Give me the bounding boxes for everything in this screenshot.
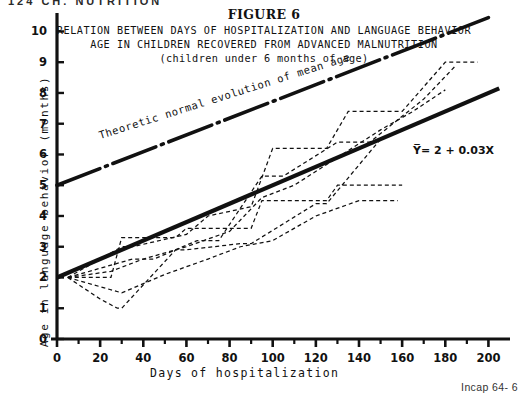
y-axis-tick-label: 5 xyxy=(39,178,47,192)
series-line xyxy=(57,18,488,186)
y-axis-tick-label: 2 xyxy=(39,270,47,284)
y-axis-tick-label: 4 xyxy=(39,209,47,223)
x-axis-tick-label: 180 xyxy=(433,351,457,365)
x-axis-tick-label: 40 xyxy=(135,351,151,365)
y-axis-tick-label: 8 xyxy=(39,86,47,100)
x-axis-tick-label: 160 xyxy=(390,351,414,365)
x-axis-tick-label: 100 xyxy=(261,351,285,365)
y-axis-tick-label: 3 xyxy=(39,240,47,254)
x-axis-tick-label: 60 xyxy=(178,351,194,365)
x-axis-tick-label: 80 xyxy=(222,351,238,365)
series-line xyxy=(68,201,398,293)
data-series xyxy=(57,18,499,309)
series-line xyxy=(57,88,499,277)
figure-page: 124 CH. NUTRITION FIGURE 6 RELATION BETW… xyxy=(0,0,528,403)
y-axis-tick-label: 7 xyxy=(39,117,47,131)
x-axis-tick-label: 140 xyxy=(347,351,371,365)
series-line xyxy=(68,65,456,277)
regression-equation: Y̅= 2 + 0.03X xyxy=(412,144,495,157)
y-axis-tick-label: 10 xyxy=(31,24,47,38)
theoretic-line-label: Theoretic normal evolution of mean age xyxy=(97,50,351,141)
plot-area: Y̅= 2 + 0.03XTheoretic normal evolution … xyxy=(0,0,528,403)
y-axis-tick-label: 9 xyxy=(39,55,47,69)
x-axis-tick-label: 120 xyxy=(304,351,328,365)
y-axis-tick-label: 6 xyxy=(39,147,47,161)
x-axis-tick-label: 20 xyxy=(92,351,108,365)
x-axis-tick-label: 0 xyxy=(53,351,61,365)
chart-annotations: Y̅= 2 + 0.03XTheoretic normal evolution … xyxy=(97,50,494,157)
y-axis-tick-label: 0 xyxy=(39,332,47,346)
y-axis-tick-label: 1 xyxy=(39,301,47,315)
x-axis-tick-label: 200 xyxy=(476,351,500,365)
